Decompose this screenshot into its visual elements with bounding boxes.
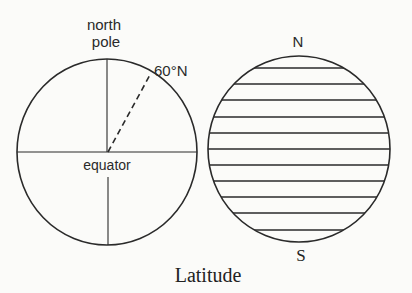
- north-pole-label-line1: north: [87, 16, 121, 33]
- parallels: [200, 68, 400, 230]
- left-globe: north pole 60°N equator: [17, 16, 197, 245]
- latitude-60-dashed-line: [108, 73, 151, 152]
- north-label: N: [293, 33, 304, 50]
- right-globe: N S: [200, 33, 400, 265]
- south-label: S: [296, 246, 305, 265]
- latitude-60n-label: 60°N: [154, 62, 188, 79]
- latitude-diagram: north pole 60°N equator N S Latitude: [0, 0, 412, 293]
- equator-label: equator: [83, 157, 131, 173]
- figure-caption: Latitude: [175, 264, 242, 286]
- north-pole-label-line2: pole: [92, 33, 120, 50]
